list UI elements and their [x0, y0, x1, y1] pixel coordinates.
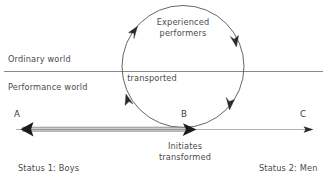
- label-status-2: Status 2: Men: [259, 163, 318, 174]
- experienced-performers-line1: Experienced: [157, 17, 210, 27]
- initiates-transformed-line1: Initiates: [168, 141, 202, 151]
- node-label-a: A: [14, 110, 20, 119]
- initiates-transformed-line2: transformed: [159, 152, 211, 162]
- label-transported: transported: [127, 73, 177, 84]
- node-label-c: C: [300, 110, 306, 119]
- label-experienced-performers: Experienced performers: [157, 17, 210, 38]
- label-initiates-transformed: Initiates transformed: [159, 141, 211, 162]
- label-status-1: Status 1: Boys: [18, 163, 79, 174]
- label-ordinary-world: Ordinary world: [8, 54, 71, 65]
- node-label-b: B: [181, 110, 187, 119]
- label-performance-world: Performance world: [8, 82, 88, 93]
- diagram-canvas: Ordinary world Performance world transpo…: [0, 0, 327, 180]
- experienced-performers-line2: performers: [160, 28, 207, 38]
- cycle-arrow-upper-right: [230, 36, 238, 48]
